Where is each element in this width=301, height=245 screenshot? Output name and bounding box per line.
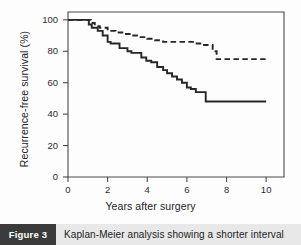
figure-number-tag: Figure 3 [0,224,56,245]
x-axis-ticks [68,177,266,182]
plot-frame [68,12,284,177]
plot-axes [68,12,284,177]
x-tick-label: 10 [251,185,281,195]
x-tick-label: 6 [172,185,202,195]
x-tick-label: 2 [93,185,123,195]
data-series-group [68,20,266,102]
figure-caption-bar: Figure 3 Kaplan-Meier analysis showing a… [0,224,301,245]
kaplan-meier-chart: 020406080100 0246810 Recurrence-free sur… [0,0,301,222]
x-tick-label: 0 [53,185,83,195]
series-dashed-curve [68,20,266,59]
y-axis-title: Recurrence-free survival (%) [18,19,30,179]
x-tick-label: 8 [212,185,242,195]
x-axis-title: Years after surgery [0,200,301,212]
series-solid-curve [68,20,266,102]
figure-caption-text: Kaplan-Meier analysis showing a shorter … [56,224,301,245]
x-tick-label: 4 [132,185,162,195]
figure-container: 020406080100 0246810 Recurrence-free sur… [0,0,301,245]
y-axis-ticks [63,20,68,177]
